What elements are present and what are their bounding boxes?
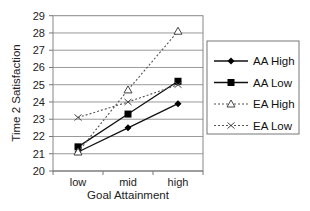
x-tick-label: high xyxy=(168,176,189,188)
x-axis-title: Goal Attainment xyxy=(87,189,170,201)
y-tick-label: 23 xyxy=(33,113,45,125)
square-marker xyxy=(125,111,132,118)
y-axis: 20212223242526272829 xyxy=(33,10,53,177)
triangle-marker xyxy=(174,27,182,34)
series-aa-high xyxy=(75,100,182,155)
x-tick-label: mid xyxy=(119,176,137,188)
diamond-marker xyxy=(175,100,182,107)
legend-label: EA High xyxy=(253,98,295,110)
x-tick-label: low xyxy=(70,176,87,188)
y-tick-label: 24 xyxy=(33,96,45,108)
x-axis: lowmidhigh xyxy=(53,171,203,188)
legend-label: EA Low xyxy=(253,120,293,132)
legend-label: AA High xyxy=(253,55,295,67)
line-chart: 20212223242526272829 lowmidhigh Goal Att… xyxy=(0,0,310,211)
y-axis-title: Time 2 Satisfaction xyxy=(10,44,22,141)
square-marker xyxy=(228,79,235,86)
y-tick-label: 25 xyxy=(33,79,45,91)
square-marker xyxy=(175,78,182,85)
y-tick-label: 27 xyxy=(33,44,45,56)
y-tick-label: 26 xyxy=(33,61,45,73)
diamond-marker xyxy=(125,124,132,131)
y-tick-label: 29 xyxy=(33,10,45,22)
y-tick-label: 21 xyxy=(33,148,45,160)
y-tick-label: 20 xyxy=(33,165,45,177)
triangle-marker xyxy=(124,86,132,93)
y-tick-label: 28 xyxy=(33,27,45,39)
y-tick-label: 22 xyxy=(33,130,45,142)
series-ea-high xyxy=(74,27,182,155)
legend-label: AA Low xyxy=(253,77,293,89)
